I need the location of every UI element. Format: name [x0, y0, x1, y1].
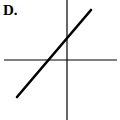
plotted-line	[17, 10, 91, 97]
line-graph	[0, 0, 120, 120]
